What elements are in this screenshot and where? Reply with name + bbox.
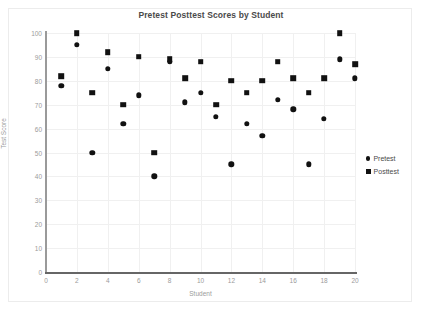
square-marker-icon	[366, 169, 371, 174]
gridline-vertical	[293, 33, 294, 272]
data-point-posttest	[182, 76, 188, 82]
data-point-pretest	[244, 121, 249, 126]
data-point-pretest	[105, 66, 110, 71]
data-point-posttest	[120, 102, 126, 108]
data-point-pretest	[90, 150, 95, 155]
y-tick-label: 60	[22, 125, 42, 132]
data-point-pretest	[306, 162, 311, 167]
y-axis-tick-labels: 0102030405060708090100	[20, 33, 42, 272]
gridline-vertical	[262, 33, 263, 272]
y-tick-label: 90	[22, 53, 42, 60]
x-tick-label: 2	[75, 277, 79, 284]
legend-item-pretest[interactable]: Pretest	[366, 152, 418, 165]
x-axis-line	[45, 272, 357, 274]
data-point-posttest	[290, 76, 296, 82]
x-tick-label: 6	[137, 277, 141, 284]
gridline-vertical	[355, 33, 356, 272]
data-point-pretest	[321, 116, 326, 121]
x-tick-label: 16	[290, 277, 297, 284]
data-point-posttest	[352, 61, 358, 67]
data-point-posttest	[275, 59, 281, 65]
chart-legend: PretestPosttest	[366, 152, 418, 178]
data-point-posttest	[213, 102, 219, 108]
data-point-posttest	[74, 30, 80, 36]
data-point-posttest	[90, 90, 96, 96]
y-axis-title: Test Score	[0, 118, 7, 149]
x-tick-label: 14	[259, 277, 266, 284]
data-point-pretest	[337, 57, 342, 62]
y-tick-label: 70	[22, 101, 42, 108]
data-point-posttest	[59, 73, 65, 79]
legend-item-label: Pretest	[373, 155, 395, 162]
scatter-chart: Pretest Posttest Scores by Student 01020…	[0, 0, 422, 319]
circle-marker-icon	[366, 156, 370, 160]
data-point-posttest	[260, 78, 266, 84]
data-point-posttest	[105, 49, 111, 55]
data-point-posttest	[337, 30, 343, 36]
data-point-posttest	[167, 56, 173, 62]
x-tick-label: 18	[320, 277, 327, 284]
x-tick-label: 0	[44, 277, 48, 284]
data-point-posttest	[306, 90, 312, 96]
data-point-pretest	[290, 107, 295, 112]
gridline-vertical	[77, 33, 78, 272]
data-point-pretest	[59, 83, 64, 88]
gridline-vertical	[139, 33, 140, 272]
data-point-posttest	[151, 150, 157, 156]
legend-item-label: Posttest	[374, 168, 399, 175]
x-tick-label: 20	[351, 277, 358, 284]
gridline-vertical	[201, 33, 202, 272]
data-point-pretest	[229, 162, 234, 167]
plot-area	[46, 33, 355, 272]
x-tick-label: 10	[197, 277, 204, 284]
data-point-pretest	[136, 92, 141, 97]
data-point-pretest	[74, 42, 79, 47]
data-point-pretest	[260, 133, 265, 138]
y-tick-label: 80	[22, 77, 42, 84]
data-point-pretest	[213, 114, 218, 119]
gridline-vertical	[170, 33, 171, 272]
y-axis-line	[45, 31, 47, 274]
y-tick-label: 50	[22, 149, 42, 156]
data-point-posttest	[321, 76, 327, 82]
x-tick-label: 8	[168, 277, 172, 284]
x-axis-tick-labels: 02468101214161820	[46, 277, 355, 289]
y-tick-label: 40	[22, 173, 42, 180]
data-point-posttest	[229, 78, 235, 84]
legend-item-posttest[interactable]: Posttest	[366, 165, 418, 178]
gridline-vertical	[324, 33, 325, 272]
x-tick-label: 4	[106, 277, 110, 284]
data-point-pretest	[275, 97, 280, 102]
chart-title: Pretest Posttest Scores by Student	[0, 10, 422, 20]
y-tick-label: 20	[22, 221, 42, 228]
gridline-vertical	[231, 33, 232, 272]
data-point-pretest	[151, 174, 156, 179]
data-point-posttest	[136, 54, 142, 60]
data-point-posttest	[244, 90, 250, 96]
data-point-posttest	[198, 59, 204, 65]
x-axis-title: Student	[46, 290, 355, 297]
y-tick-label: 0	[22, 269, 42, 276]
data-point-pretest	[121, 121, 126, 126]
x-tick-label: 12	[228, 277, 235, 284]
y-tick-label: 10	[22, 245, 42, 252]
data-point-pretest	[198, 90, 203, 95]
y-tick-label: 30	[22, 197, 42, 204]
y-tick-label: 100	[22, 30, 42, 37]
